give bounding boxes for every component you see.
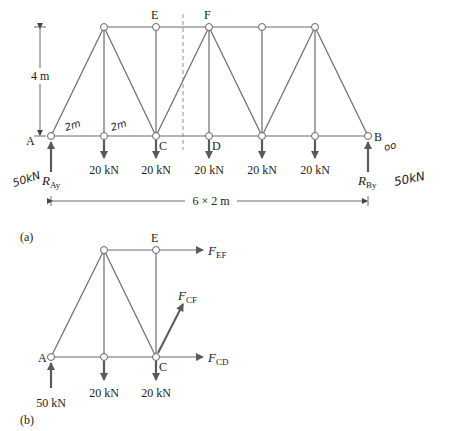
handwritten-panel-length: 2m [109,117,128,133]
label-node-b: B [374,130,382,144]
label-node-a: A [38,351,47,365]
member-diagonal [262,27,315,136]
force-cd-label: FCD [207,350,229,367]
handwritten-panel-length: 2m [63,117,82,133]
truss-figure: A B C D E F 4 m 20 kN 20 kN 20 kN 20 kN … [0,0,456,431]
label-node-c: C [159,360,167,374]
load-label: 20 kN [247,163,277,177]
load-label: 20 kN [141,163,171,177]
label-node-f: F [204,8,211,22]
joint-a [48,133,55,140]
joint-e [153,24,160,31]
reaction-a-label: RAy [41,173,61,190]
member-diagonal [104,27,156,136]
joint-a [48,354,55,361]
load-label: 20 kN [89,163,119,177]
label-node-d: D [212,139,221,153]
member-diagonal [104,250,156,357]
truss-b [51,250,156,357]
handwritten-reaction-a-value: 50kN [11,169,42,190]
joint [259,133,266,140]
member-diagonal [51,250,104,357]
joint [101,247,108,254]
handwritten-mark: oo [383,139,398,153]
member-diagonal [209,27,262,136]
reaction-a-value: 50 kN [36,396,66,410]
height-dimension: 4 m [29,27,51,136]
truss-a [51,27,368,136]
load-label: 20 kN [194,163,224,177]
joint-e [153,247,160,254]
span-label: 6 × 2 m [192,194,230,208]
load-label: 20 kN [89,386,119,400]
force-ef-label: FEF [207,243,226,260]
member-cf [156,27,209,136]
loads-a [104,140,315,158]
caption-b: (b) [20,413,34,427]
height-label: 4 m [31,69,50,83]
load-label: 20 kN [141,386,171,400]
handwritten-reaction-b-value: 50kN [393,169,426,189]
joint-b [365,133,372,140]
joint [101,24,108,31]
label-node-a: A [26,134,35,148]
span-dimension: 6 × 2 m [51,194,368,208]
joint [312,133,319,140]
force-cf-arrow-icon [158,304,183,353]
joint [101,133,108,140]
force-cf-label: FCF [177,288,197,305]
joint-f [206,24,213,31]
joint [312,24,319,31]
label-node-e: E [151,231,158,245]
joint [101,354,108,361]
member-diagonal [315,27,368,136]
joint [259,24,266,31]
reaction-b-label: RBy [357,173,377,190]
label-node-c: C [159,139,167,153]
load-label: 20 kN [300,163,330,177]
label-node-e: E [151,8,158,22]
caption-a: (a) [20,230,33,244]
